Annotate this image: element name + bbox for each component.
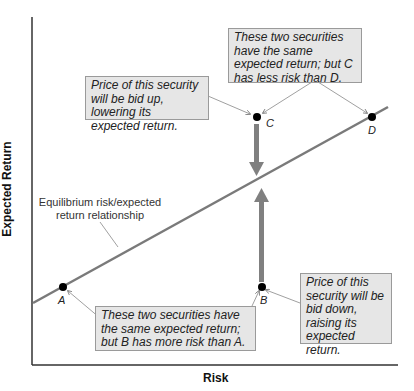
arrow-down-icon — [249, 124, 264, 176]
line-label-line1: Equilibrium risk/expected — [30, 196, 170, 209]
point-c-label: C — [266, 117, 274, 129]
arrow-up-icon — [254, 188, 269, 282]
callout-bid-down: Price of this security will be bid down,… — [300, 273, 392, 344]
bid-up-connector — [208, 96, 250, 114]
point-a-label: A — [58, 294, 65, 306]
y-axis-label: Expected Return — [0, 139, 14, 239]
callout-bid-up: Price of this security will be bid up, l… — [85, 76, 209, 120]
x-axis-label: Risk — [203, 371, 228, 385]
c-connector — [263, 82, 312, 113]
point-a — [59, 283, 67, 291]
point-b — [258, 283, 266, 291]
line-label-pointer — [100, 222, 118, 247]
point-d — [368, 113, 376, 121]
callout-c-vs-d: These two securities have the same expec… — [228, 28, 362, 83]
point-b-label: B — [260, 294, 267, 306]
d-connector — [318, 82, 367, 113]
bid-down-connector — [266, 290, 300, 303]
point-d-label: D — [368, 124, 376, 136]
b-connector — [252, 291, 259, 306]
line-label-line2: return relationship — [30, 209, 170, 222]
point-c — [253, 113, 261, 121]
callout-a-vs-b: These two securities have the same expec… — [95, 306, 256, 351]
equilibrium-line-label: Equilibrium risk/expected return relatio… — [30, 196, 170, 222]
